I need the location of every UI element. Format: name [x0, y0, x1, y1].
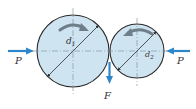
force-arrow-right-p-icon	[166, 48, 190, 55]
force-arrow-contact-f-icon	[106, 62, 113, 84]
label-p-right: P	[176, 55, 184, 66]
label-p-left: P	[14, 55, 22, 66]
label-f: F	[103, 90, 112, 101]
friction-wheels-diagram: d1 d2 P P F	[0, 0, 196, 109]
center-lines	[8, 8, 192, 94]
force-arrow-left-p-icon	[8, 48, 34, 55]
